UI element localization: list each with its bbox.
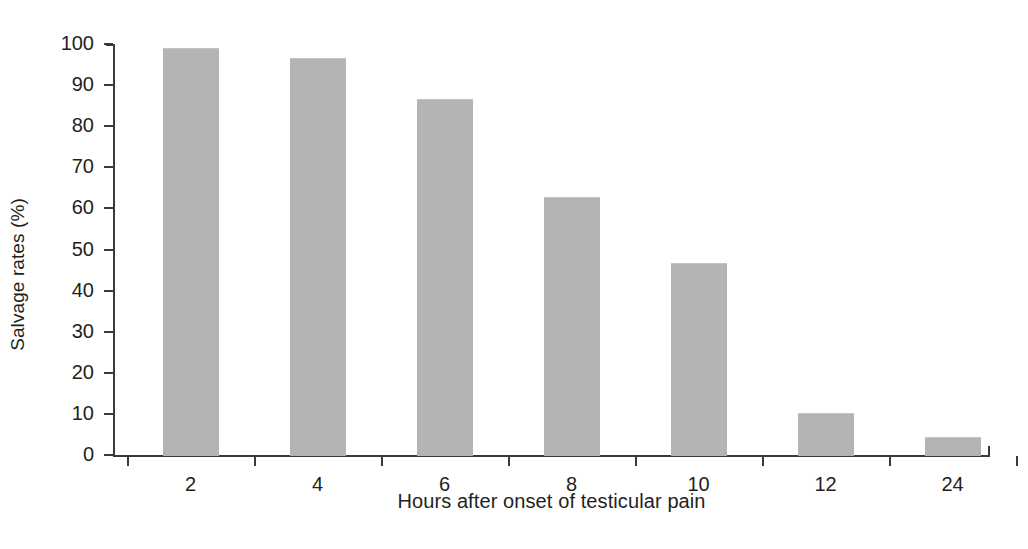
x-axis-tick [381,456,383,466]
x-axis-tick [254,456,256,466]
y-axis-tick-label: 60 [34,197,94,217]
y-axis-tick-label: 10 [34,403,94,423]
x-axis-right-cap-tick [988,446,990,457]
y-axis-line [113,44,115,456]
bar [798,413,854,456]
y-axis-tick-label: 50 [34,239,94,259]
y-axis-tick [104,290,113,292]
x-axis-tick [1016,456,1018,466]
x-axis-tick [127,456,129,466]
x-axis-tick [635,456,637,466]
x-axis-tick [508,456,510,466]
y-axis-tick-label: 100 [34,33,94,53]
y-axis-tick [104,372,113,374]
y-axis-tick [104,207,113,209]
y-axis-title: Salvage rates (%) [0,0,36,549]
y-axis-tick-label: 70 [34,156,94,176]
y-axis-tick [104,454,113,456]
bar [417,99,473,456]
bar [671,263,727,456]
bar-chart: Salvage rates (%) 0102030405060708090100… [0,0,1028,549]
bar [163,48,219,456]
y-axis-tick-label: 90 [34,74,94,94]
y-axis-tick-label: 30 [34,321,94,341]
y-axis-tick [104,84,113,86]
x-axis-tick [889,456,891,466]
y-axis-tick [104,413,113,415]
y-axis-tick [104,331,113,333]
plot-area: 0102030405060708090100 2468101224 [113,44,990,455]
y-axis-tick [104,249,113,251]
bar [925,437,981,456]
y-axis-tick-label: 0 [34,444,94,464]
y-axis-tick [104,43,113,45]
x-axis-title: Hours after onset of testicular pain [113,489,990,513]
y-axis-tick [104,125,113,127]
bar [544,197,600,456]
x-axis-tick [762,456,764,466]
y-axis-tick-label: 40 [34,280,94,300]
y-axis-tick-label: 20 [34,362,94,382]
bar [290,58,346,456]
y-axis-tick [104,166,113,168]
y-axis-tick-label: 80 [34,115,94,135]
